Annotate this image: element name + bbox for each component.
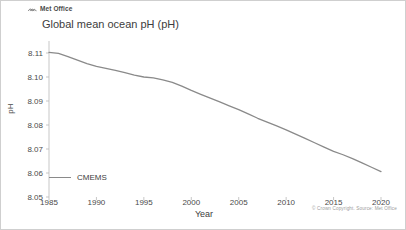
y-tick-label: 8.09 (13, 97, 43, 106)
x-tick-label: 1990 (76, 198, 116, 207)
y-tick-label: 8.07 (13, 145, 43, 154)
legend-swatch-cmems (49, 177, 71, 178)
copyright-notice: © Crown Copyright. Source: Met Office (312, 206, 397, 211)
x-tick-label: 1985 (29, 198, 69, 207)
chart-frame: Met Office Global mean ocean pH (pH) 8.1… (0, 0, 406, 230)
y-axis-label: pH (6, 94, 15, 124)
chart-legend: CMEMS (49, 173, 107, 182)
chart-plot-area: 8.118.108.098.088.078.068.05 19851990199… (1, 1, 406, 230)
line-chart-canvas (1, 1, 406, 230)
y-tick-label: 8.08 (13, 121, 43, 130)
x-tick-label: 2010 (266, 198, 306, 207)
x-tick-label: 2005 (219, 198, 259, 207)
x-tick-label: 2000 (171, 198, 211, 207)
x-tick-label: 1995 (124, 198, 164, 207)
y-tick-label: 8.06 (13, 169, 43, 178)
legend-label-cmems: CMEMS (77, 173, 107, 182)
y-tick-label: 8.11 (13, 49, 43, 58)
y-tick-label: 8.10 (13, 73, 43, 82)
series-line-cmems (49, 52, 381, 171)
